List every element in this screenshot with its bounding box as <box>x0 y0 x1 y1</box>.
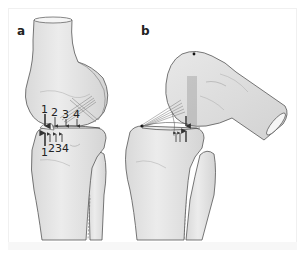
panel-b <box>126 51 289 240</box>
upper-label-2: 2 <box>51 106 58 119</box>
lower-label-4: 4 <box>62 142 69 155</box>
panel-a: 1 2 3 4 1 2 3 4 <box>25 17 107 240</box>
lower-label-1: 1 <box>41 146 48 159</box>
upper-label-1: 1 <box>41 103 48 116</box>
landmark-dot-femur-b <box>193 53 196 56</box>
panel-label-a: a <box>17 24 25 38</box>
lower-label-2: 2 <box>48 142 55 155</box>
femur-a-cut <box>34 17 72 23</box>
upper-label-4: 4 <box>73 108 80 121</box>
upper-label-3: 3 <box>62 108 69 121</box>
knee-joint-illustration: 1 2 3 4 1 2 3 4 <box>0 0 307 255</box>
panel-label-b: b <box>141 24 150 38</box>
lower-label-3: 3 <box>55 142 62 155</box>
